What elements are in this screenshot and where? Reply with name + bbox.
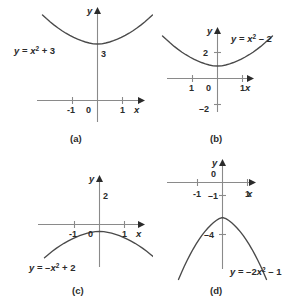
origin-label: 0 bbox=[211, 169, 216, 179]
x-tick-label-pos1: 1 bbox=[120, 105, 125, 115]
origin-label: 0 bbox=[86, 105, 91, 115]
origin-label: 0 bbox=[206, 83, 211, 93]
parabola-figure-grid: y x -1 0 1 3 y = x2 + 3 (a) bbox=[0, 0, 306, 301]
x-axis-arrowhead bbox=[138, 221, 145, 228]
x-tick-label-pos1: 1 bbox=[240, 83, 245, 93]
panel-caption-b: (b) bbox=[210, 133, 222, 144]
x-axis-label: x bbox=[244, 82, 251, 93]
panel-d: y x -1 0 1 –1 –4 y = –2x2 – 1 (d) bbox=[153, 151, 306, 301]
y-tick-label-neg4: –4 bbox=[204, 230, 214, 240]
y-tick-label-neg1: –1 bbox=[208, 191, 218, 201]
equation-label-b: y = x2 – 2 bbox=[230, 33, 272, 45]
x-tick-label-neg1: -1 bbox=[69, 229, 77, 239]
origin-label: 0 bbox=[88, 229, 93, 239]
x-tick-label-pos1: 1 bbox=[122, 229, 127, 239]
y-tick-label-pos2: 2 bbox=[203, 48, 208, 58]
equation-label-d: y = –2x2 – 1 bbox=[229, 266, 282, 278]
y-axis-label: y bbox=[88, 173, 95, 184]
x-axis-label: x bbox=[135, 228, 142, 239]
vertex-value-label: 3 bbox=[101, 49, 106, 59]
panel-caption-d: (d) bbox=[210, 285, 222, 296]
vertex-value-label: 2 bbox=[103, 191, 108, 201]
panel-c: y x -1 0 1 2 y = –x2 + 2 (c) bbox=[0, 151, 153, 301]
x-axis-arrowhead bbox=[249, 179, 256, 186]
x-axis-arrowhead bbox=[138, 97, 145, 104]
panel-caption-a: (a) bbox=[70, 133, 82, 144]
equation-label-c: y = –x2 + 2 bbox=[28, 262, 75, 274]
x-tick-label-neg1: -1 bbox=[67, 105, 75, 115]
panel-b: y x 1 0 1 2 –2 y = x2 – 2 (b) bbox=[153, 0, 306, 150]
panel-caption-c: (c) bbox=[72, 285, 84, 296]
y-axis-arrowhead bbox=[219, 159, 226, 166]
y-axis-label: y bbox=[86, 5, 93, 16]
x-tick-label-neg1: -1 bbox=[193, 189, 201, 199]
equation-label-a: y = x2 + 3 bbox=[13, 45, 55, 57]
y-axis-arrowhead bbox=[94, 7, 101, 14]
y-axis-arrowhead bbox=[214, 27, 221, 34]
x-axis-arrowhead bbox=[247, 75, 254, 82]
y-axis-arrowhead bbox=[96, 175, 103, 182]
x-tick-label-pos1: 1 bbox=[245, 189, 250, 199]
x-axis-label: x bbox=[133, 104, 140, 115]
panel-a: y x -1 0 1 3 y = x2 + 3 (a) bbox=[0, 0, 153, 150]
y-axis-label: y bbox=[211, 157, 218, 168]
y-tick-label-neg2: –2 bbox=[199, 104, 209, 114]
y-axis-label: y bbox=[206, 25, 213, 36]
x-tick-label-neg1: 1 bbox=[189, 83, 194, 93]
